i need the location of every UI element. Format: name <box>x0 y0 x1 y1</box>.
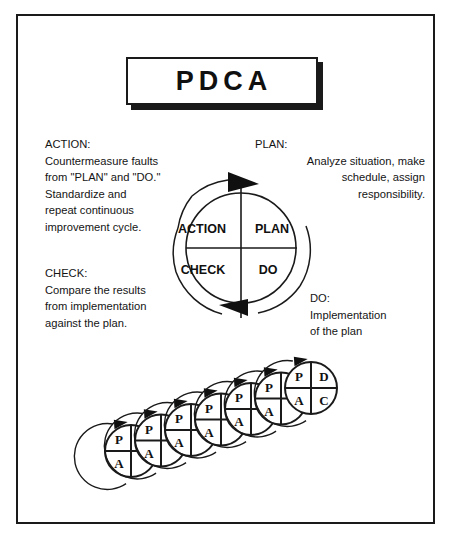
description-do-heading: DO: <box>310 290 430 307</box>
description-action-body: Countermeasure faults from "PLAN" and "D… <box>45 155 160 233</box>
description-plan-heading: PLAN: <box>255 136 425 153</box>
description-action-heading: ACTION: <box>45 136 210 153</box>
description-do-body: Implementation of the plan <box>310 309 387 338</box>
pdca-diagram-page: PDCA ACTION PLAN CHECK DO ACTION:Counter… <box>0 0 450 539</box>
title-box: PDCA <box>126 57 318 105</box>
page-title: PDCA <box>172 68 273 95</box>
description-check-body: Compare the results from implementation … <box>45 284 146 329</box>
description-check: CHECK:Compare the results from implement… <box>45 265 210 331</box>
description-plan-body: Analyze situation, make schedule, assign… <box>307 155 425 200</box>
description-check-heading: CHECK: <box>45 265 210 282</box>
description-do: DO:Implementation of the plan <box>310 290 430 340</box>
description-action: ACTION:Countermeasure faults from "PLAN"… <box>45 136 210 235</box>
description-plan: PLAN:Analyze situation, make schedule, a… <box>255 136 425 202</box>
